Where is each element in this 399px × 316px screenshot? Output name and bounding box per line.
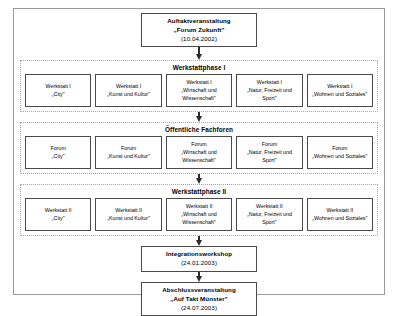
group-heading: Werkstattphase I (25, 64, 373, 71)
cell-name: „Natur, Freizeit und Sport" (239, 149, 299, 164)
cell-name: „Kunst und Kultur" (98, 153, 158, 161)
cell-name: „City" (28, 91, 88, 99)
cell-kind: Werkstatt II (310, 207, 370, 215)
cell-name: „Natur, Freizeit und Sport" (239, 87, 299, 102)
group-heading: Öffentliche Fachforen (25, 126, 373, 133)
workshop2-cell-wirtschaft-wissenschaft: Werkstatt II „Wirtschaft und Wissenschaf… (166, 198, 232, 231)
cell-kind: Werkstatt I (239, 79, 299, 87)
forum-cell-wohnen-soziales: Forum „Wohnen und Soziales" (307, 136, 373, 169)
workshop2-cell-kunst-kultur: Werkstatt II „Kunst und Kultur" (95, 198, 161, 231)
arrow-start-to-phase-one (195, 47, 204, 60)
group-row: Forum „City" Forum „Kunst und Kultur" Fo… (25, 136, 373, 169)
cell-name: „Wirtschaft und Wissenschaft" (169, 211, 229, 226)
cell-name: „Wirtschaft und Wissenschaft" (169, 87, 229, 102)
workshop-cell-natur-freizeit-sport: Werkstatt I „Natur, Freizeit und Sport" (236, 74, 302, 107)
diagram-frame: Auftaktveranstaltung „Forum Zukunft" (10… (13, 8, 385, 295)
cell-kind: Werkstatt II (239, 203, 299, 211)
group-heading: Werkstattphase II (25, 188, 373, 195)
workshop2-cell-city: Werkstatt II „City" (25, 198, 91, 231)
cell-kind: Werkstatt II (28, 207, 88, 215)
forum-cell-city: Forum „City" (25, 136, 91, 169)
cell-kind: Forum (28, 145, 88, 153)
node-abschlussveranstaltung: Abschlussveranstaltung „Auf Takt Münster… (141, 282, 257, 316)
node-title: Integrationsworkshop (148, 250, 250, 259)
cell-kind: Forum (239, 141, 299, 149)
forum-cell-wirtschaft-wissenschaft: Forum „Wirtschaft und Wissenschaft" (166, 136, 232, 169)
cell-kind: Forum (169, 141, 229, 149)
cell-kind: Werkstatt I (169, 79, 229, 87)
node-title: Auftaktveranstaltung (148, 17, 250, 26)
cell-name: „Wohnen und Soziales" (310, 215, 370, 223)
node-date: (10.04.2002) (148, 35, 250, 44)
arrow-head-icon (196, 178, 202, 184)
cell-kind: Werkstatt II (169, 203, 229, 211)
cell-kind: Forum (310, 145, 370, 153)
cell-kind: Forum (98, 145, 158, 153)
arrow-head-icon (196, 276, 202, 282)
node-subtitle: „Auf Takt Münster" (148, 295, 250, 304)
cell-kind: Werkstatt I (28, 83, 88, 91)
arrow-phase-one-to-forums (195, 112, 204, 122)
workshop2-cell-natur-freizeit-sport: Werkstatt II „Natur, Freizeit und Sport" (236, 198, 302, 231)
node-date: (24.07.2003) (148, 304, 250, 313)
workshop-cell-city: Werkstatt I „City" (25, 74, 91, 107)
forum-cell-kunst-kultur: Forum „Kunst und Kultur" (95, 136, 161, 169)
arrow-phase-two-to-integration (195, 236, 204, 246)
arrow-forums-to-phase-two (195, 174, 204, 184)
workshop-cell-kunst-kultur: Werkstatt I „Kunst und Kultur" (95, 74, 161, 107)
cell-name: „Kunst und Kultur" (98, 91, 158, 99)
workshop-cell-wirtschaft-wissenschaft: Werkstatt I „Wirtschaft und Wissenschaft… (166, 74, 232, 107)
cell-name: „Natur, Freizeit und Sport" (239, 211, 299, 226)
cell-name: „Kunst und Kultur" (98, 215, 158, 223)
group-oeffentliche-fachforen: Öffentliche Fachforen Forum „City" Forum… (20, 122, 378, 174)
cell-name: „City" (28, 153, 88, 161)
cell-name: „City" (28, 215, 88, 223)
cell-name: „Wohnen und Soziales" (310, 91, 370, 99)
cell-kind: Werkstatt I (98, 83, 158, 91)
group-werkstattphase-1: Werkstattphase I Werkstatt I „City" Werk… (20, 60, 378, 112)
arrow-head-icon (196, 116, 202, 122)
node-title: Abschlussveranstaltung (148, 286, 250, 295)
arrow-integration-to-final (195, 272, 204, 282)
process-flow: Auftaktveranstaltung „Forum Zukunft" (10… (14, 9, 384, 294)
forum-cell-natur-freizeit-sport: Forum „Natur, Freizeit und Sport" (236, 136, 302, 169)
cell-name: „Wirtschaft und Wissenschaft" (169, 149, 229, 164)
workshop2-cell-wohnen-soziales: Werkstatt II „Wohnen und Soziales" (307, 198, 373, 231)
cell-kind: Werkstatt I (310, 83, 370, 91)
node-subtitle: „Forum Zukunft" (148, 26, 250, 35)
arrow-head-icon (196, 240, 202, 246)
cell-name: „Wohnen und Soziales" (310, 153, 370, 161)
node-date: (24.01.2003) (148, 259, 250, 268)
node-integrationsworkshop: Integrationsworkshop (24.01.2003) (141, 246, 257, 272)
group-werkstattphase-2: Werkstattphase II Werkstatt II „City" We… (20, 184, 378, 236)
workshop-cell-wohnen-soziales: Werkstatt I „Wohnen und Soziales" (307, 74, 373, 107)
arrow-head-icon (196, 54, 202, 60)
group-row: Werkstatt II „City" Werkstatt II „Kunst … (25, 198, 373, 231)
node-auftaktveranstaltung: Auftaktveranstaltung „Forum Zukunft" (10… (141, 13, 257, 47)
group-row: Werkstatt I „City" Werkstatt I „Kunst un… (25, 74, 373, 107)
cell-kind: Werkstatt II (98, 207, 158, 215)
